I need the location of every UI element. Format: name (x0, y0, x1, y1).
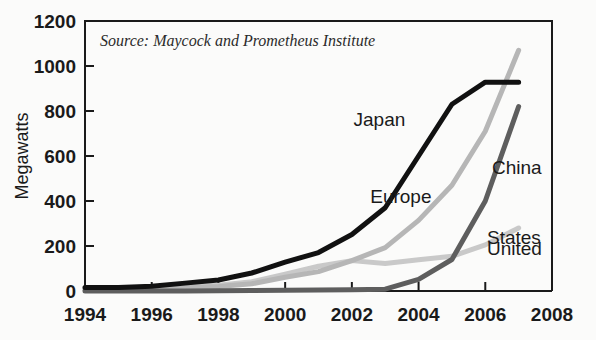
x-tick-label: 1994 (64, 304, 107, 325)
x-tick-label: 2006 (464, 304, 506, 325)
chart-figure: 020040060080010001200 199419961998200020… (0, 0, 596, 340)
y-tick-label: 0 (65, 281, 76, 302)
line-chart: 020040060080010001200 199419961998200020… (0, 0, 596, 340)
x-tick-label: 2004 (397, 304, 440, 325)
source-note: Source: Maycock and Prometheus Institute (100, 32, 375, 50)
series-label-united-states: States (487, 227, 541, 248)
series-label-europe: Europe (370, 186, 431, 207)
x-tick-label: 2002 (331, 304, 373, 325)
x-tick-label: 2000 (264, 304, 306, 325)
x-tick-label: 1996 (131, 304, 173, 325)
y-tick-label: 1200 (34, 11, 76, 32)
y-tick-label: 200 (44, 236, 76, 257)
y-tick-label: 600 (44, 146, 76, 167)
series-label-japan: Japan (354, 109, 406, 130)
y-tick-label: 1000 (34, 56, 76, 77)
x-tick-label: 2008 (531, 304, 573, 325)
x-tick-label: 1998 (197, 304, 239, 325)
series-label-china: China (492, 157, 542, 178)
y-axis-title: Megawatts (12, 112, 32, 199)
y-tick-label: 800 (44, 101, 76, 122)
y-tick-label: 400 (44, 191, 76, 212)
